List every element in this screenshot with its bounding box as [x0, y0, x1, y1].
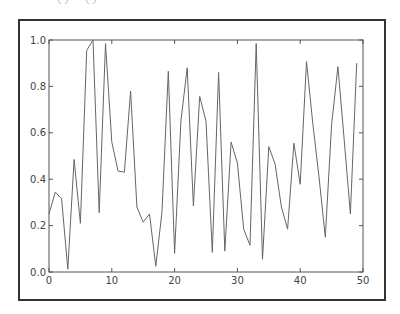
y-tick-label: 0.6 — [30, 127, 46, 138]
y-tick-label: 0.2 — [30, 220, 46, 231]
y-tick-label: 0.4 — [30, 174, 46, 185]
plot-area — [49, 40, 363, 272]
line-chart: 0.00.20.40.60.81.0 01020304050 — [0, 0, 400, 314]
x-tick-label: 20 — [168, 275, 181, 286]
x-tick-label: 40 — [294, 275, 307, 286]
y-tick-label: 1.0 — [30, 35, 46, 46]
x-tick-label: 0 — [46, 275, 52, 286]
x-tick-label: 30 — [231, 275, 244, 286]
y-tick-label: 0.0 — [30, 267, 46, 278]
x-tick-label: 10 — [105, 275, 118, 286]
data-line — [49, 40, 357, 269]
y-tick-label: 0.8 — [30, 81, 46, 92]
x-tick-label: 50 — [357, 275, 370, 286]
